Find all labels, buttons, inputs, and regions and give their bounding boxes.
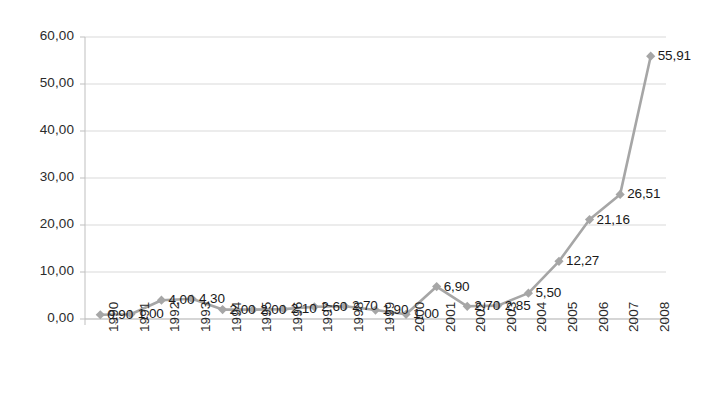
data-point-label: 2,10	[291, 301, 317, 316]
x-tick-label: 2007	[626, 302, 641, 332]
y-tick-label: 60,00	[10, 28, 74, 43]
y-tick-label: 30,00	[10, 169, 74, 184]
data-point-label: 5,50	[535, 285, 561, 300]
data-point-label: 1,00	[413, 306, 439, 321]
data-point-label: 4,30	[199, 291, 225, 306]
y-tick-marks	[80, 37, 85, 319]
data-point-label: 26,51	[627, 186, 660, 201]
data-line	[100, 56, 650, 315]
data-point-marker	[218, 305, 227, 314]
data-point-marker	[646, 52, 655, 61]
gridlines	[85, 37, 666, 319]
y-tick-label: 10,00	[10, 263, 74, 278]
data-point-label: 1,90	[383, 302, 409, 317]
data-point-label: 2,85	[505, 298, 531, 313]
x-tick-label: 2006	[596, 302, 611, 332]
data-point-label: 2,00	[230, 302, 256, 317]
data-markers	[96, 52, 656, 320]
y-tick-label: 50,00	[10, 75, 74, 90]
x-tick-label: 2005	[565, 302, 580, 332]
data-point-label: 2,70	[474, 298, 500, 313]
data-point-marker	[157, 296, 166, 305]
x-tick-label: 2004	[534, 302, 549, 332]
x-tick-label: 1993	[198, 302, 213, 332]
data-point-label: 2,60	[321, 299, 347, 314]
data-point-label: 0,90	[107, 307, 133, 322]
data-point-label: 2,70	[352, 298, 378, 313]
y-tick-label: 0,00	[10, 310, 74, 325]
line-chart: 0,0010,0020,0030,0040,0050,0060,00 19901…	[0, 0, 706, 408]
data-point-label: 12,27	[566, 253, 599, 268]
plot-area	[0, 0, 706, 408]
y-tick-label: 20,00	[10, 216, 74, 231]
x-tick-label: 2001	[443, 302, 458, 332]
x-tick-label: 2008	[657, 302, 672, 332]
data-point-label: 6,90	[444, 279, 470, 294]
data-point-label: 2,00	[260, 302, 286, 317]
data-point-label: 21,16	[597, 212, 630, 227]
y-tick-label: 40,00	[10, 122, 74, 137]
data-point-label: 55,91	[658, 48, 691, 63]
data-point-label: 1,00	[138, 306, 164, 321]
data-point-marker	[96, 310, 105, 319]
data-point-label: 4,00	[168, 292, 194, 307]
